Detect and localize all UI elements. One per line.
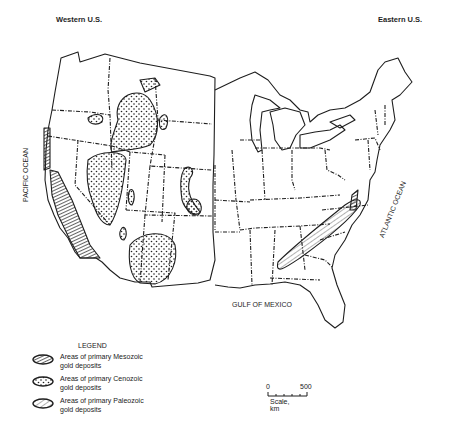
legend-label-line2: gold deposits — [60, 383, 210, 392]
mesozoic-pattern-icon — [32, 354, 54, 365]
legend-label-line1: Areas of primary Mesozoic — [60, 352, 210, 361]
paleozoic-pattern-icon — [32, 398, 54, 409]
cenozoic-pattern-icon — [32, 376, 54, 387]
legend-label-line1: Areas of primary Cenozoic — [60, 374, 210, 383]
pacific-ocean-label: PACIFIC OCEAN — [22, 148, 29, 202]
legend-item-cenozoic: Areas of primary Cenozoic gold deposits — [32, 374, 212, 396]
legend-label-line2: gold deposits — [60, 405, 210, 414]
gulf-of-mexico-label: GULF OF MEXICO — [232, 301, 292, 308]
scale-end: 500 — [300, 383, 312, 390]
legend-item-mesozoic: Areas of primary Mesozoic gold deposits — [32, 352, 212, 374]
legend-label-line2: gold deposits — [60, 361, 210, 370]
legend-title: LEGEND — [78, 342, 107, 349]
scale-start: 0 — [266, 383, 270, 390]
legend-item-paleozoic: Areas of primary Paleozoic gold deposits — [32, 396, 212, 418]
scale-label: Scale, km — [270, 398, 289, 412]
legend-label-line1: Areas of primary Paleozoic — [60, 396, 210, 405]
